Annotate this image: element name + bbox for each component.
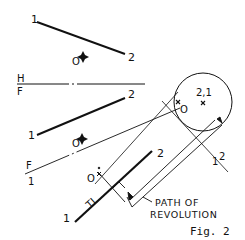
true-length-label: TL: [83, 194, 100, 211]
point-view: 2,1 O 1 2: [174, 73, 232, 167]
revolution-arrow-icon: [128, 192, 133, 200]
folding-line-hf: H F: [17, 73, 145, 97]
front-view: 1 2 O: [28, 88, 135, 149]
folding-line-h-label: H: [17, 73, 25, 84]
front-view-line: [37, 98, 125, 135]
figure-caption: Fig. 2: [190, 225, 230, 238]
point-view-edge-label-1: 1: [212, 156, 218, 167]
top-view-line: [37, 22, 125, 54]
path-of-revolution-label-line2: REVOLUTION: [150, 209, 217, 220]
folding-line-1-label: 1: [28, 176, 34, 187]
point-view-edge-label-2: 2: [219, 151, 225, 162]
aux-view-label-2: 2: [157, 147, 164, 160]
top-view-label-2: 2: [128, 51, 135, 64]
folding-line-f-label: F: [17, 86, 23, 97]
path-of-revolution-label-line1: PATH OF: [155, 197, 199, 208]
folding-line-f-label-2: F: [26, 160, 32, 171]
aux-view-label-o: O: [87, 173, 95, 184]
aux-view-label-1: 1: [63, 212, 70, 225]
revolution-circle: [174, 73, 232, 131]
point-view-label: 2,1: [196, 87, 212, 98]
descriptive-geometry-figure: 1 2 O H F 1 2 O F 1: [0, 0, 245, 240]
front-view-label-1: 1: [28, 129, 35, 142]
aux-view-true-length-line: [75, 151, 152, 222]
top-view: 1 2 O: [31, 13, 135, 67]
revolution-arrow-icon-2: [217, 117, 222, 123]
front-view-label-o: O: [72, 138, 80, 149]
point-view-center-icon: [201, 101, 205, 105]
front-view-label-2: 2: [128, 88, 135, 101]
top-view-label-o: O: [72, 56, 80, 67]
point-view-label-o: O: [180, 104, 188, 115]
aux-view: 1 2 TL O: [63, 147, 164, 225]
top-view-label-1: 1: [31, 13, 38, 26]
